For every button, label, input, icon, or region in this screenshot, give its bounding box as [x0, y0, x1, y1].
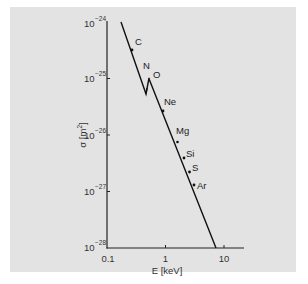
svg-text:σ [m2]: σ [m2]	[76, 122, 88, 147]
label-Ar: Ar	[197, 180, 207, 191]
x-tick-0.1: 0.1	[101, 253, 114, 264]
label-C: C	[135, 36, 142, 47]
y-axis-title: σ [m2]	[76, 122, 88, 147]
y-tick-1e-28: 10	[84, 242, 95, 253]
x-tick-labels: 0.1 1 10	[101, 253, 229, 264]
label-Ne: Ne	[164, 96, 176, 107]
element-labels: C N O Ne Mg Si S Ar	[135, 36, 207, 191]
edge-markers	[131, 49, 196, 187]
edge-detail	[146, 88, 147, 94]
label-O: O	[153, 69, 160, 80]
y-tick-1e-25: 10	[84, 73, 95, 84]
y-tick-1e-27: 10	[84, 186, 95, 197]
label-Mg: Mg	[176, 125, 189, 136]
y-tick-exp: −25	[95, 70, 106, 77]
y-tick-1e-24: 10	[84, 18, 95, 29]
y-tick-exp: −28	[95, 239, 106, 246]
x-tick-10: 10	[219, 253, 230, 264]
label-S: S	[192, 162, 198, 173]
label-Si: Si	[186, 148, 194, 159]
x-axis-title: E [keV]	[152, 265, 183, 276]
y-tick-exp: −26	[95, 127, 106, 134]
x-tick-1: 1	[163, 253, 168, 264]
cross-section-curve	[121, 22, 216, 248]
y-tick-exp: −27	[95, 183, 106, 190]
y-tick-exp: −24	[95, 15, 106, 22]
chart: 10 −24 10 −25 10 −26 10 −27 10 −28 0.1 1…	[0, 0, 308, 284]
label-N: N	[143, 60, 150, 71]
